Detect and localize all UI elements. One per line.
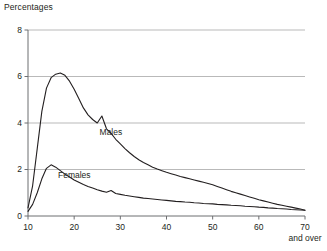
y-tick-label-0: 0: [6, 211, 22, 221]
series-annotation-females: Females: [58, 170, 91, 180]
x-tick-label-60: 60: [244, 222, 274, 232]
x-tick-sublabel-and-over: and over: [275, 233, 327, 243]
tick-mark-group: [25, 30, 306, 220]
y-tick-label-8: 8: [6, 25, 22, 35]
x-tick-label-30: 30: [105, 222, 135, 232]
series-line-males: [28, 73, 305, 210]
x-tick-label-40: 40: [152, 222, 182, 232]
y-tick-label-2: 2: [6, 164, 22, 174]
y-tick-label-6: 6: [6, 71, 22, 81]
x-tick-label-70: 70: [290, 222, 320, 232]
y-tick-label-4: 4: [6, 118, 22, 128]
series-annotation-males: Males: [100, 127, 123, 137]
x-tick-label-10: 10: [13, 222, 43, 232]
gridline-group: [28, 30, 305, 170]
x-tick-label-20: 20: [59, 222, 89, 232]
x-tick-label-50: 50: [198, 222, 228, 232]
series-path-group: [28, 73, 305, 211]
